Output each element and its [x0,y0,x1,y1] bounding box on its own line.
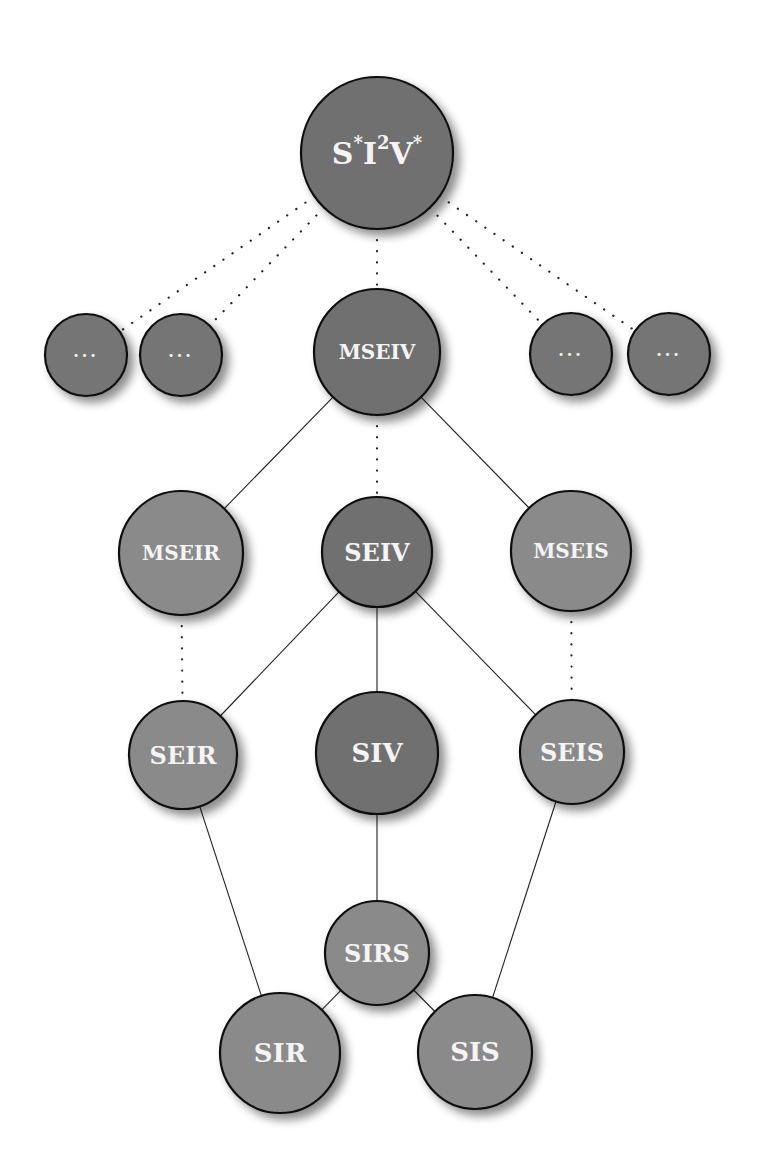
node-s_i2_v: S*I2V* [301,77,453,229]
node-mseir: MSEIR [119,491,243,615]
node-ellipsis_3: ··· [530,313,612,395]
node-circle [301,77,453,229]
node-label: SIS [450,1037,500,1067]
node-seiv: SEIV [322,497,432,607]
node-label: SEIV [344,538,410,567]
edge-sirs-to-sis [414,990,435,1012]
node-label: SEIR [150,741,218,770]
edge-mseir-to-seir [182,615,183,701]
edge-s_i2_v-to-ellipsis_2 [210,208,325,326]
node-label: ··· [168,346,194,365]
node-label: MSEIR [142,541,220,565]
node-seis: SEIS [520,700,624,804]
node-mseis: MSEIS [511,491,631,611]
edge-s_i2_v-to-ellipsis_4 [440,196,636,331]
node-ellipsis_1: ··· [45,314,127,396]
node-sir: SIR [220,993,340,1113]
node-sirs: SIRS [325,901,429,1005]
edge-seis-to-sis [493,802,557,998]
edge-sirs-to-sir [322,990,341,1010]
nodes-layer: S*I2V*······MSEIV······MSEIRSEIVMSEISSEI… [45,77,710,1113]
edge-seiv-to-seir [220,592,339,716]
node-siv: SIV [316,692,438,814]
node-label: SIR [254,1038,307,1068]
edge-s_i2_v-to-ellipsis_3 [430,208,543,325]
node-label: MSEIV [339,340,416,364]
node-label: MSEIS [533,539,609,563]
node-sis: SIS [418,995,532,1109]
node-ellipsis_4: ··· [628,313,710,395]
model-hierarchy-diagram: S*I2V*······MSEIV······MSEIRSEIVMSEISSEI… [0,0,757,1168]
node-label: SIV [351,738,403,768]
edge-mseiv-to-mseir [224,397,333,509]
node-label: SIRS [344,939,410,968]
node-mseiv: MSEIV [314,289,440,415]
node-label: ··· [558,345,584,364]
edge-mseiv-to-mseis [421,397,529,508]
edge-seiv-to-seis [415,591,535,714]
node-label: ··· [73,346,99,365]
edge-s_i2_v-to-ellipsis_1 [120,196,315,331]
node-ellipsis_2: ··· [140,314,222,396]
edge-seir-to-sir [200,806,262,996]
node-seir: SEIR [129,701,237,809]
node-label: ··· [656,345,682,364]
node-label: SEIS [540,738,604,767]
